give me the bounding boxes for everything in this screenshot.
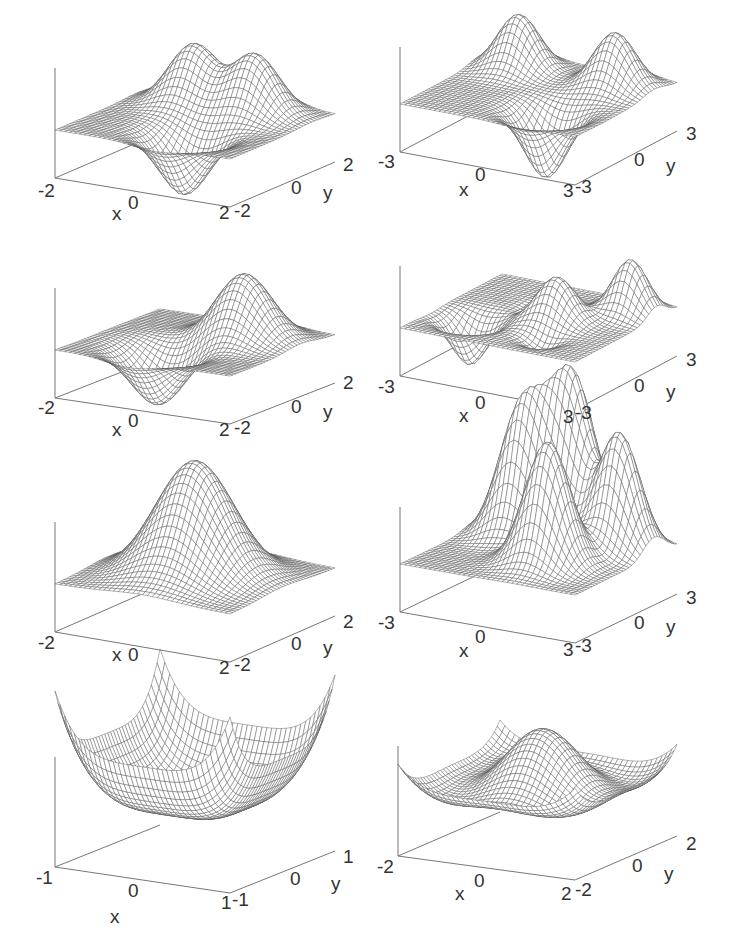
y-tick-min: -2 (234, 201, 251, 220)
x-tick-max: 1 (221, 893, 232, 912)
y-axis-label: y (323, 183, 333, 202)
x-tick-mid: 0 (475, 627, 486, 646)
y-tick-mid: 0 (291, 397, 302, 416)
axis-line (55, 178, 230, 207)
y-tick-max: 2 (343, 373, 354, 392)
x-tick-min: -3 (378, 377, 395, 396)
y-axis-label: y (666, 382, 676, 401)
x-tick-min: -2 (38, 633, 55, 652)
x-tick-min: -3 (378, 613, 395, 632)
x-tick-max: 2 (219, 658, 230, 677)
y-tick-mid: 0 (291, 178, 302, 197)
axis-line (398, 812, 500, 856)
x-tick-mid: 0 (474, 871, 485, 890)
x-tick-mid: 0 (128, 881, 139, 900)
y-axis-label: y (666, 156, 676, 175)
y-tick-min: -2 (575, 880, 592, 899)
x-axis-label: x (112, 645, 122, 664)
x-tick-min: -2 (377, 857, 394, 876)
x-tick-mid: 0 (475, 393, 486, 412)
x-tick-mid: 0 (128, 411, 139, 430)
axis-line (55, 398, 230, 424)
y-tick-min: -3 (575, 636, 592, 655)
surface-p5 (55, 461, 335, 662)
axis-line (55, 867, 230, 893)
y-tick-mid: 0 (634, 376, 645, 395)
x-axis-label: x (455, 884, 465, 903)
figure-grid: -2 0 2 -2 0 2 x y -3 0 3 -3 0 3 x y -2 0… (0, 0, 738, 948)
x-tick-mid: 0 (128, 645, 139, 664)
axis-line (398, 856, 575, 880)
x-tick-max: 2 (561, 884, 572, 903)
x-tick-max: 2 (219, 203, 230, 222)
y-tick-max: 3 (686, 350, 697, 369)
x-tick-mid: 0 (475, 165, 486, 184)
y-tick-mid: 0 (634, 150, 645, 169)
x-axis-label: x (112, 204, 122, 223)
y-axis-label: y (666, 617, 676, 636)
y-tick-min: -2 (234, 655, 251, 674)
y-tick-max: 1 (343, 847, 354, 866)
y-tick-max: 2 (343, 155, 354, 174)
y-tick-mid: 0 (291, 634, 302, 653)
axis-line (55, 825, 160, 867)
x-axis-label: x (459, 406, 469, 425)
axis-line (55, 632, 230, 662)
x-axis-label: x (112, 420, 122, 439)
x-tick-min: -3 (378, 152, 395, 171)
y-tick-min: -3 (575, 403, 592, 422)
y-axis-label: y (323, 638, 333, 657)
y-tick-max: 3 (686, 588, 697, 607)
surface-p7 (55, 649, 335, 893)
y-tick-mid: 0 (632, 856, 643, 875)
y-axis-label: y (323, 402, 333, 421)
y-tick-min: -3 (575, 177, 592, 196)
y-tick-max: 3 (686, 124, 697, 143)
x-tick-max: 3 (563, 407, 574, 426)
x-axis-label: x (110, 907, 120, 926)
y-tick-mid: 0 (634, 613, 645, 632)
axis-line (575, 836, 677, 880)
y-tick-min: -2 (234, 418, 251, 437)
y-axis-label: y (331, 874, 341, 893)
x-axis-label: x (459, 641, 469, 660)
x-tick-min: -2 (38, 181, 55, 200)
y-tick-min: -1 (232, 890, 249, 909)
axis-line (400, 612, 575, 643)
x-tick-min: -2 (38, 398, 55, 417)
axis-line (230, 851, 335, 893)
x-tick-max: 2 (219, 420, 230, 439)
x-tick-max: 3 (563, 181, 574, 200)
x-tick-min: -1 (36, 868, 53, 887)
y-tick-max: 2 (343, 612, 354, 631)
surface-p6 (400, 365, 677, 643)
y-tick-max: 2 (686, 834, 697, 853)
surface-plots-canvas (0, 0, 738, 948)
x-tick-mid: 0 (128, 193, 139, 212)
x-tick-max: 3 (563, 640, 574, 659)
y-axis-label: y (664, 864, 674, 883)
x-axis-label: x (459, 180, 469, 199)
y-tick-mid: 0 (290, 869, 301, 888)
